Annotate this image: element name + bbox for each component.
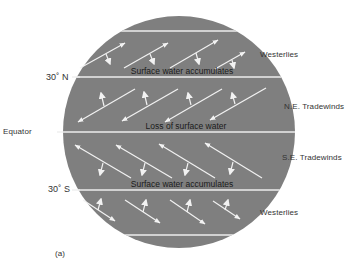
label-30s: 30˚ S — [48, 184, 70, 194]
label-se-tradewinds: S.E. Tradewinds — [282, 153, 342, 163]
label-loss-of-surface-water: Loss of surface water — [146, 121, 227, 131]
ekman-transport-diagram: Surface water accumulates Loss of surfac… — [0, 0, 364, 270]
label-westerlies-south: Westerlies — [260, 208, 298, 218]
globe-figure — [0, 0, 364, 270]
label-ne-tradewinds: N.E. Tradewinds — [284, 102, 344, 112]
label-30n: 30˚ N — [46, 72, 69, 82]
panel-label: (a) — [55, 249, 65, 259]
label-surface-water-accumulates-south: Surface water accumulates — [131, 179, 234, 189]
label-surface-water-accumulates-north: Surface water accumulates — [131, 66, 234, 76]
label-westerlies-north: Westerlies — [260, 50, 298, 60]
label-equator: Equator — [3, 127, 32, 137]
